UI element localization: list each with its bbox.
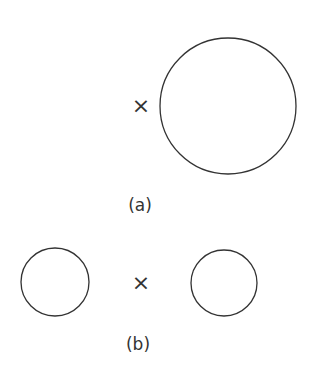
large-circle (160, 38, 296, 174)
cross-marker-b: × (132, 270, 150, 295)
label-b: (b) (126, 334, 150, 354)
label-a: (a) (128, 195, 152, 215)
figure-a: × (a) (128, 38, 296, 215)
diagram-canvas: × (a) × (b) (0, 0, 314, 366)
cross-marker-a: × (132, 93, 150, 118)
right-circle (191, 250, 257, 316)
left-circle (21, 248, 89, 316)
figure-b: × (b) (21, 248, 257, 354)
